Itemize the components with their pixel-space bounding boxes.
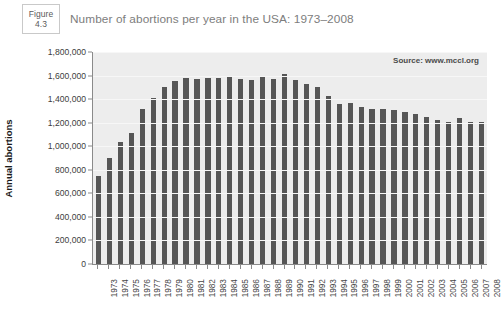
x-axis-tick	[163, 265, 164, 269]
x-axis-tick	[229, 265, 230, 269]
y-axis-tick	[88, 216, 92, 217]
x-axis-tick-label: 2005	[460, 279, 469, 297]
bar	[107, 158, 112, 264]
bar	[172, 81, 177, 264]
y-axis-tick	[88, 193, 92, 194]
x-axis-tick	[97, 265, 98, 269]
figure-badge-word: Figure	[29, 9, 54, 19]
gridline	[93, 76, 487, 77]
x-axis-tick	[108, 265, 109, 269]
bar	[271, 79, 276, 264]
x-axis-tick-label: 1980	[186, 279, 195, 297]
bar	[249, 80, 254, 264]
x-axis-tick-label: 1976	[143, 279, 152, 297]
bars-layer	[93, 52, 487, 264]
y-axis-tick-label: 600,000	[55, 188, 86, 198]
bar	[435, 120, 440, 264]
gridline	[93, 193, 487, 194]
figure-header: Figure 4.3 Number of abortions per year …	[0, 0, 500, 38]
bar	[205, 78, 210, 264]
x-axis-tick-label: 1995	[351, 279, 360, 297]
figure-badge-number: 4.3	[35, 19, 47, 30]
x-axis-tick-label: 1993	[329, 279, 338, 297]
chart-title: Number of abortions per year in the USA:…	[70, 12, 354, 26]
x-axis-tick	[327, 265, 328, 269]
x-axis-tick-label: 1984	[230, 279, 239, 297]
gridline	[93, 240, 487, 241]
x-axis-tick-label: 2003	[438, 279, 447, 297]
x-axis-tick	[470, 265, 471, 269]
x-axis-tick-label: 2001	[416, 279, 425, 297]
bar	[424, 117, 429, 264]
x-axis-tick	[119, 265, 120, 269]
x-axis-tick	[185, 265, 186, 269]
x-axis-tick-label: 1986	[252, 279, 261, 297]
x-axis-tick	[349, 265, 350, 269]
figure-number-badge: Figure 4.3	[22, 4, 60, 34]
x-axis-tick	[305, 265, 306, 269]
x-axis-tick-label: 1989	[285, 279, 294, 297]
x-axis-tick-label: 1981	[197, 279, 206, 297]
x-axis-tick-label: 1987	[263, 279, 272, 297]
bar	[216, 78, 221, 264]
x-axis-tick	[481, 265, 482, 269]
x-axis-tick	[218, 265, 219, 269]
plot-area: Source: www.mccl.org	[92, 52, 487, 265]
y-axis-tick	[88, 264, 92, 265]
x-axis-tick	[448, 265, 449, 269]
y-axis-tick-label: 1,800,000	[48, 47, 86, 57]
x-axis-tick	[338, 265, 339, 269]
x-axis-tick	[371, 265, 372, 269]
gridline	[93, 52, 487, 53]
x-axis-tick	[207, 265, 208, 269]
x-axis-tick-label: 1977	[154, 279, 163, 297]
x-axis-tick	[459, 265, 460, 269]
x-axis-tick-label: 2008	[493, 279, 502, 297]
x-axis-tick	[152, 265, 153, 269]
bar	[304, 84, 309, 264]
x-axis-tick	[141, 265, 142, 269]
bar	[238, 79, 243, 265]
x-axis-tick	[426, 265, 427, 269]
bar	[315, 87, 320, 264]
x-axis-tick	[240, 265, 241, 269]
x-axis-tick	[404, 265, 405, 269]
x-axis-tick	[284, 265, 285, 269]
x-axis-tick	[251, 265, 252, 269]
x-axis-tick-label: 1973	[110, 279, 119, 297]
x-axis-tick-label: 1994	[340, 279, 349, 297]
x-axis-tick-labels: 1973197419751976197719781979198019811982…	[92, 270, 486, 310]
x-axis-tick-label: 1978	[165, 279, 174, 297]
x-axis-tick-label: 1990	[296, 279, 305, 297]
x-axis-tick	[360, 265, 361, 269]
y-axis-tick-label: 400,000	[55, 212, 86, 222]
y-axis-tick	[88, 99, 92, 100]
y-axis-tick-label: 200,000	[55, 235, 86, 245]
y-axis-tick-label: 1,000,000	[48, 141, 86, 151]
x-axis-tick	[174, 265, 175, 269]
y-axis-tick-label: 1,200,000	[48, 118, 86, 128]
y-axis-tick-label: 1,600,000	[48, 71, 86, 81]
x-axis-tick-label: 1996	[362, 279, 371, 297]
x-axis-tick	[262, 265, 263, 269]
y-axis-tick	[88, 52, 92, 53]
y-axis-tick-label: 800,000	[55, 165, 86, 175]
x-axis-tick-label: 1983	[219, 279, 228, 297]
y-axis-tick	[88, 75, 92, 76]
bar	[457, 118, 462, 264]
x-axis-tick	[382, 265, 383, 269]
x-axis-tick-label: 2002	[427, 279, 436, 297]
x-axis-tick	[196, 265, 197, 269]
x-axis-tick	[294, 265, 295, 269]
gridline	[93, 170, 487, 171]
x-axis-ticks	[92, 265, 486, 269]
bar	[162, 87, 167, 264]
x-axis-tick	[437, 265, 438, 269]
gridline	[93, 146, 487, 147]
x-axis-tick-label: 1975	[132, 279, 141, 297]
y-axis-tick	[88, 240, 92, 241]
gridline	[93, 217, 487, 218]
x-axis-tick-label: 2000	[405, 279, 414, 297]
x-axis-tick	[316, 265, 317, 269]
